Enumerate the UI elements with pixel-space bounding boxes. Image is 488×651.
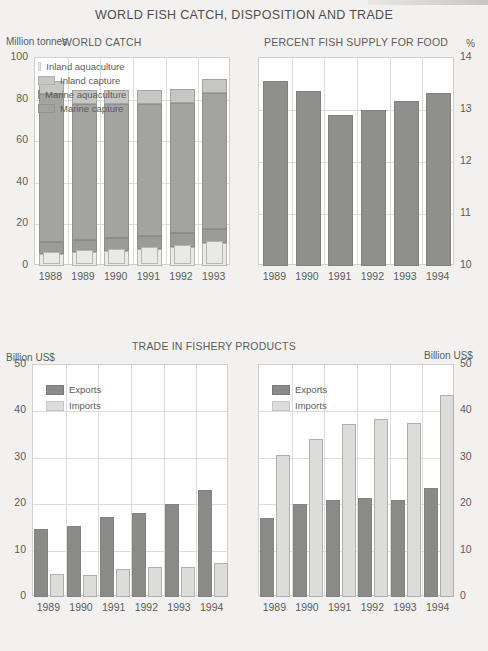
- legend-label-marine_capture: Marine capture: [60, 103, 123, 114]
- bar-percent-1989: [263, 81, 288, 266]
- bar-percent-1991: [328, 115, 353, 266]
- gridline-h: [35, 183, 229, 184]
- bar-segment-marine_capture: [170, 103, 195, 233]
- x-axis-tick-label: 1993: [163, 601, 196, 613]
- x-axis-tick-label: 1989: [258, 270, 291, 282]
- bar-percent-1994: [426, 93, 451, 266]
- x-axis-tick-label: 1989: [67, 270, 100, 282]
- y-axis-tick-label: 100: [0, 50, 28, 62]
- x-axis-tick-label: 1989: [258, 601, 291, 613]
- bar-exports-1994: [198, 490, 212, 597]
- gridline-v: [422, 58, 423, 264]
- bar-segment-inland-aquaculture-inset: [174, 245, 191, 264]
- x-axis-tick-label: 1991: [323, 601, 356, 613]
- y-axis-tick-label: 40: [0, 403, 26, 415]
- y-axis-tick-label: 11: [460, 206, 471, 218]
- panel-title-world-catch: WORLD CATCH: [62, 36, 142, 48]
- bar-imports-1989: [276, 455, 290, 597]
- bar-percent-1993: [394, 101, 419, 266]
- gridline-h: [259, 110, 453, 111]
- y-axis-tick-label: 50: [460, 357, 472, 369]
- legend-swatch-marine_aquaculture: [38, 90, 40, 99]
- x-axis-tick-label: 1993: [389, 270, 422, 282]
- bar-exports-1992: [358, 498, 372, 597]
- bar-imports-1991: [116, 569, 130, 597]
- y-axis-tick-label: 20: [460, 496, 472, 508]
- legend-swatch-inland_aquaculture: [38, 62, 41, 71]
- legend-world-catch: Inland aquacultureInland captureMarine a…: [38, 61, 226, 117]
- plot-area-percent_fish_supply: [258, 57, 454, 265]
- bar-imports-1990: [309, 439, 323, 597]
- x-axis-tick-label: 1994: [421, 601, 454, 613]
- bar-exports-1993: [165, 504, 179, 597]
- bar-exports-1993: [391, 500, 405, 597]
- bar-exports-1990: [293, 504, 307, 597]
- legend-swatch-imports: [272, 401, 290, 411]
- x-axis-tick-label: 1991: [323, 270, 356, 282]
- gridline-h: [35, 141, 229, 142]
- bar-imports-1992: [374, 419, 388, 597]
- x-axis-tick-label: 1994: [421, 270, 454, 282]
- bar-segment-inland-aquaculture-inset: [43, 252, 60, 264]
- legend-item-marine_capture: Marine capture: [38, 103, 124, 114]
- y-axis-label-world-catch: Million tonnes: [6, 36, 67, 47]
- gridline-v: [357, 58, 358, 264]
- x-axis-tick-label: 1994: [195, 601, 228, 613]
- chart-world-catch: Million tonnesWORLD CATCH020406080100198…: [0, 36, 244, 326]
- bar-exports-1989: [34, 529, 48, 597]
- legend-label-exports: Exports: [295, 384, 327, 395]
- y-axis-tick-label: 30: [0, 450, 26, 462]
- x-axis-tick-label: 1990: [291, 270, 324, 282]
- bar-imports-1994: [214, 563, 228, 597]
- x-axis-tick-label: 1992: [130, 601, 163, 613]
- x-axis-tick-label: 1990: [99, 270, 132, 282]
- x-axis-tick-label: 1993: [197, 270, 230, 282]
- y-axis-tick-label: 30: [460, 450, 472, 462]
- x-axis-tick-label: 1993: [389, 601, 422, 613]
- panel-title-percent-fish-supply: PERCENT FISH SUPPLY FOR FOOD: [264, 36, 448, 48]
- legend-swatch-marine_capture: [38, 104, 55, 113]
- bar-imports-1991: [342, 424, 356, 597]
- y-axis-tick-label: 60: [0, 133, 28, 145]
- scan-artifact: [368, 0, 488, 5]
- gridline-h: [33, 458, 227, 459]
- bar-exports-1994: [424, 488, 438, 597]
- legend-label-imports: Imports: [69, 400, 101, 411]
- legend-label-inland_aquaculture: Inland aquaculture: [46, 61, 124, 72]
- gridline-h: [259, 162, 453, 163]
- legend-swatch-exports: [46, 385, 64, 395]
- y-axis-tick-label: 0: [460, 589, 466, 601]
- y-axis-tick-label: 40: [460, 403, 472, 415]
- y-axis-tick-label: 12: [460, 154, 472, 166]
- chart-trade-developed: Billion US$DEVELOPED COUNTRIES0102030405…: [244, 340, 488, 651]
- y-axis-tick-label: 13: [460, 102, 472, 114]
- bar-segment-inland-aquaculture-inset: [141, 247, 158, 264]
- y-axis-tick-label: 0: [0, 258, 28, 270]
- bar-segment-marine_capture: [72, 104, 97, 240]
- legend-label-imports: Imports: [295, 400, 327, 411]
- legend-label-exports: Exports: [69, 384, 101, 395]
- gridline-v: [292, 58, 293, 264]
- y-axis-tick-label: 14: [460, 50, 472, 62]
- bar-imports-1993: [181, 567, 195, 597]
- page-title: WORLD FISH CATCH, DISPOSITION AND TRADE: [0, 8, 488, 22]
- x-axis-tick-label: 1990: [291, 601, 324, 613]
- bar-imports-1990: [83, 575, 97, 597]
- bar-segment-inland-aquaculture-inset: [76, 250, 93, 264]
- bar-exports-1990: [67, 526, 81, 597]
- x-axis-tick-label: 1992: [356, 270, 389, 282]
- legend-swatch-exports: [272, 385, 290, 395]
- bar-percent-1990: [296, 91, 321, 266]
- bar-exports-1989: [260, 518, 274, 597]
- x-axis-tick-label: 1992: [165, 270, 198, 282]
- legend-item-imports: Imports: [46, 400, 101, 411]
- bar-segment-marine_capture: [104, 104, 129, 238]
- y-axis-tick-label: 50: [0, 357, 26, 369]
- y-axis-label-percent: %: [466, 38, 475, 49]
- legend-swatch-imports: [46, 401, 64, 411]
- legend-label-inland_capture: Inland capture: [60, 75, 120, 86]
- bar-exports-1991: [326, 500, 340, 597]
- bar-imports-1994: [440, 395, 454, 597]
- legend-item-exports: Exports: [272, 384, 327, 395]
- y-axis-tick-label: 10: [460, 258, 472, 270]
